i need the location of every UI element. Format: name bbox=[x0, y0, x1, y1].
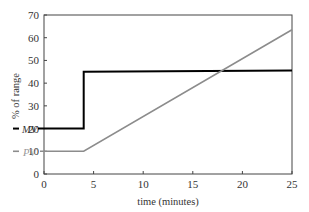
plot-frame bbox=[44, 15, 292, 174]
x-axis-label: time (minutes) bbox=[137, 196, 199, 208]
x-tick-label: 10 bbox=[138, 178, 150, 190]
y-tick-label: 60 bbox=[28, 32, 40, 44]
series bbox=[13, 30, 292, 152]
pv-label: PV bbox=[22, 147, 37, 158]
y-axis-label: % of range bbox=[10, 73, 21, 119]
y-tick-label: 30 bbox=[28, 100, 40, 112]
y-tick-label: 0 bbox=[34, 168, 40, 180]
x-tick-label: 25 bbox=[287, 178, 299, 190]
x-tick-label: 5 bbox=[91, 178, 97, 190]
y-tick-label: 70 bbox=[28, 9, 40, 21]
x-tick-label: 20 bbox=[237, 178, 249, 190]
x-tick-label: 15 bbox=[187, 178, 199, 190]
x-tick-label: 0 bbox=[41, 178, 47, 190]
y-tick-label: 40 bbox=[28, 77, 40, 89]
mv-line bbox=[38, 71, 292, 129]
y-tick-label: 50 bbox=[28, 54, 40, 66]
mv-label: MV bbox=[21, 124, 39, 135]
line-chart: 0102030405060700510152025 MV PV time (mi… bbox=[0, 0, 309, 212]
axes: 0102030405060700510152025 bbox=[28, 9, 298, 190]
pv-line bbox=[40, 30, 292, 152]
